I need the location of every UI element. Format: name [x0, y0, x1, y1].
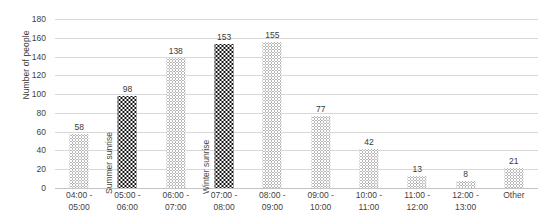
bar[interactable]: 21 — [504, 168, 523, 188]
x-axis-tick-label: Other — [485, 190, 543, 202]
bar-fill — [215, 44, 234, 188]
bar[interactable]: 13 — [408, 176, 427, 188]
x-axis-tick-label-line: 13:00 — [437, 202, 495, 214]
y-axis-tick-label: 160 — [0, 33, 46, 43]
x-axis-tick-label-line: Other — [485, 190, 543, 202]
bar-fill — [263, 42, 282, 188]
bar-value-label: 13 — [413, 164, 422, 174]
gridline — [55, 57, 538, 58]
chart-annotation: Summer sunrise — [104, 132, 114, 194]
chart-annotation: Winter sunrise — [201, 140, 211, 194]
bar-value-label: 42 — [364, 137, 373, 147]
gridline — [55, 75, 538, 76]
bar-value-label: 8 — [463, 169, 468, 179]
bar-fill — [359, 149, 378, 188]
y-axis-tick-label: 80 — [0, 108, 46, 118]
bar[interactable]: 155 — [263, 42, 282, 188]
bar-value-label: 77 — [316, 104, 325, 114]
y-axis-tick-label: 180 — [0, 14, 46, 24]
bar[interactable]: 58 — [70, 134, 89, 188]
gridline — [55, 94, 538, 95]
bar-value-label: 58 — [74, 122, 83, 132]
bar-fill — [504, 168, 523, 188]
bar[interactable]: 138 — [166, 58, 185, 188]
bar-fill — [166, 58, 185, 188]
bar-value-label: 155 — [265, 30, 279, 40]
bar-fill — [408, 176, 427, 188]
bar-fill — [456, 181, 475, 189]
bar[interactable]: 98 — [118, 96, 137, 188]
bar-value-label: 138 — [169, 46, 183, 56]
plot-area: 5898138153155774213821Summer sunriseWint… — [55, 19, 538, 188]
gridline — [55, 19, 538, 20]
bar-value-label: 21 — [509, 156, 518, 166]
y-axis-tick-label: 40 — [0, 145, 46, 155]
bar-chart: Number of people 5898138153155774213821S… — [0, 0, 546, 224]
bar-value-label: 98 — [123, 84, 132, 94]
bar-value-label: 153 — [217, 32, 231, 42]
bar-fill — [70, 134, 89, 188]
y-axis-tick-label: 120 — [0, 70, 46, 80]
bar[interactable]: 42 — [359, 149, 378, 188]
bar-fill — [311, 116, 330, 188]
bar[interactable]: 77 — [311, 116, 330, 188]
y-axis-tick-label: 20 — [0, 164, 46, 174]
y-axis-tick-label: 100 — [0, 89, 46, 99]
x-axis-tick-labels: 04:00 -05:0005:00 -06:0006:00 -07:0007:0… — [55, 190, 538, 224]
bar-fill — [118, 96, 137, 188]
axis-baseline — [55, 188, 538, 189]
gridline — [55, 38, 538, 39]
y-axis-tick-label: 60 — [0, 127, 46, 137]
bar[interactable]: 153 — [215, 44, 234, 188]
y-axis-tick-label: 0 — [0, 183, 46, 193]
bar[interactable]: 8 — [456, 181, 475, 189]
y-axis-tick-label: 140 — [0, 52, 46, 62]
